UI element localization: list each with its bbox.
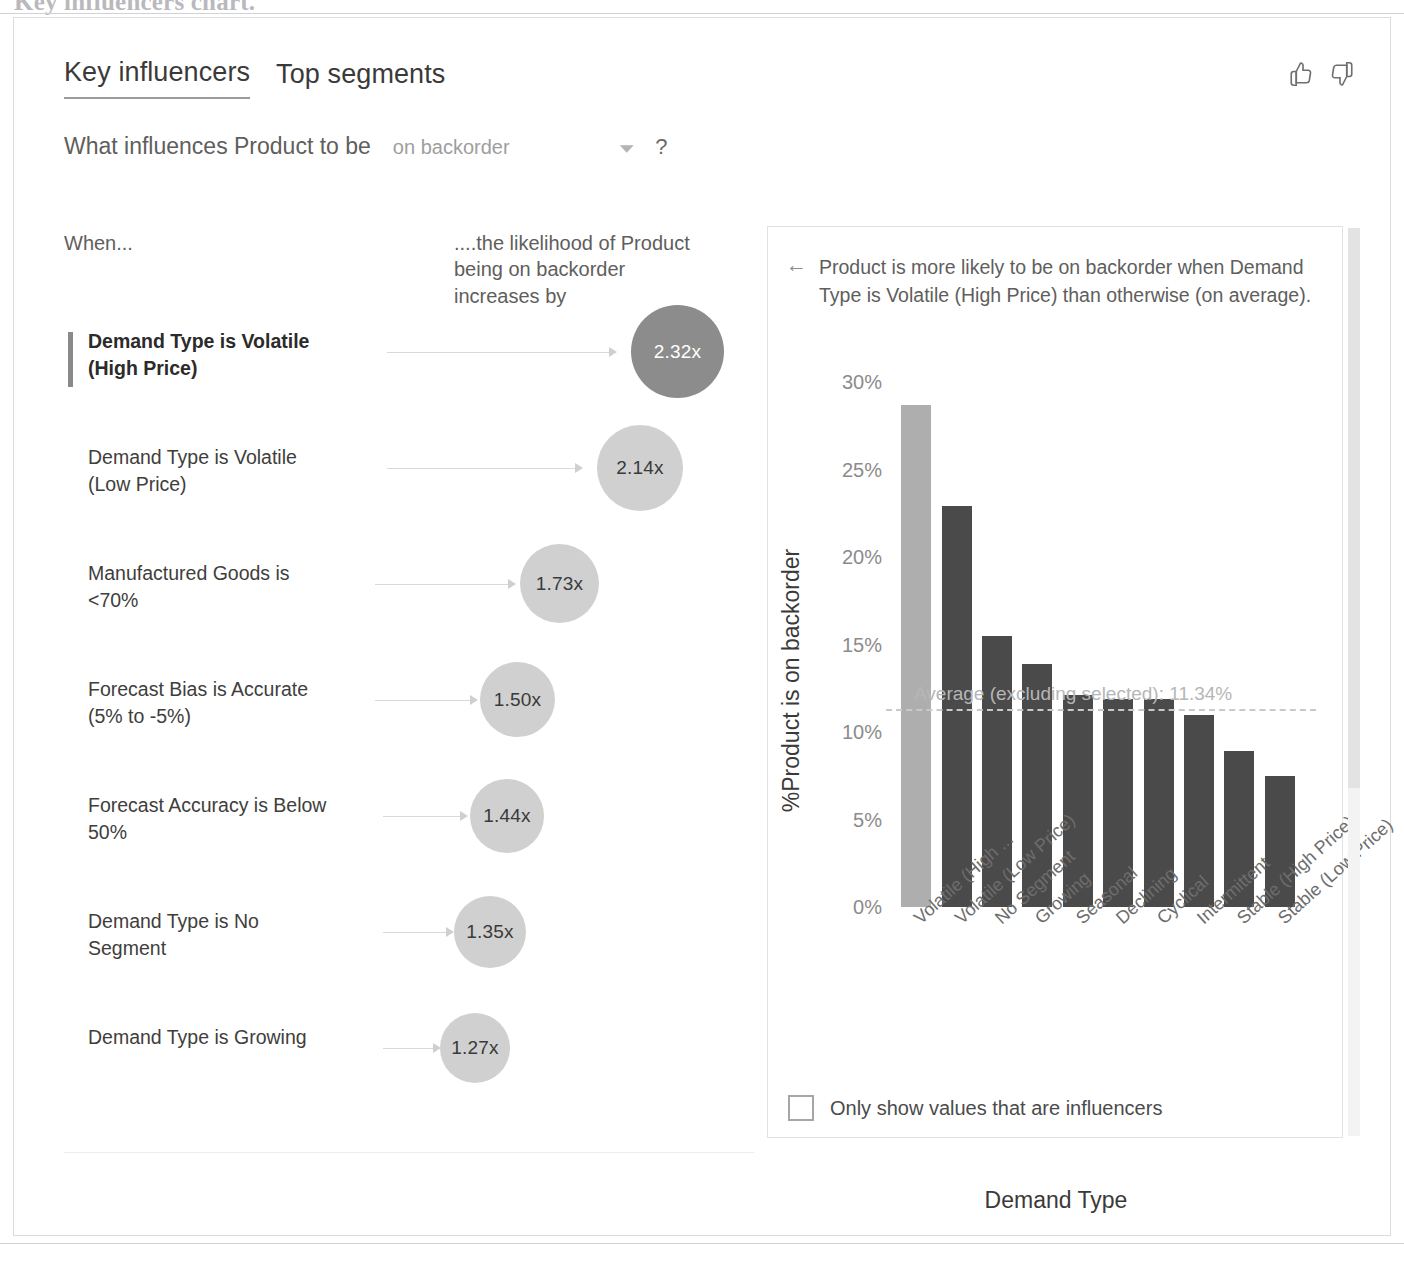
influencer-label: Demand Type is Growing [88, 1024, 388, 1051]
y-axis-tick-label: 10% [842, 721, 882, 744]
y-axis-ticks: 30%25%20%15%10%5%0% [804, 347, 882, 907]
influencer-row[interactable]: Demand Type is Growing1.27x [0, 1018, 760, 1134]
y-axis-tick-label: 25% [842, 458, 882, 481]
bar[interactable] [901, 405, 931, 907]
list-divider [64, 1152, 754, 1153]
column-header-when: When... [64, 230, 133, 256]
detail-card: ← Product is more likely to be on backor… [767, 226, 1343, 1138]
feedback-icons [1285, 59, 1358, 89]
influencer-bubble[interactable]: 1.27x [440, 1013, 510, 1083]
y-axis-tick-label: 20% [842, 546, 882, 569]
thumbs-down-icon[interactable] [1328, 59, 1358, 89]
influencer-label: Manufactured Goods is <70% [88, 560, 388, 614]
influencer-label: Demand Type is No Segment [88, 908, 388, 962]
checkbox-icon[interactable] [788, 1095, 814, 1121]
bar-chart: %Product is on backorder 30%25%20%15%10%… [768, 347, 1344, 1067]
bottom-divider [0, 1243, 1404, 1244]
influencer-row[interactable]: Demand Type is No Segment1.35x [0, 902, 760, 1018]
only-influencers-checkbox-row[interactable]: Only show values that are influencers [788, 1095, 1162, 1121]
connector-line [383, 816, 460, 817]
influencer-label: Forecast Accuracy is Below 50% [88, 792, 388, 846]
connector-arrow-icon [446, 927, 454, 937]
question-dropdown[interactable]: on backorder ▾ [393, 136, 631, 159]
influencer-label: Demand Type is Volatile (High Price) [88, 328, 388, 382]
influencer-bubble[interactable]: 1.73x [520, 544, 599, 623]
connector-line [387, 352, 609, 353]
x-axis-title: Demand Type [768, 1187, 1344, 1214]
question-row: What influences Product to be on backord… [64, 133, 667, 160]
influencer-bubble[interactable]: 1.50x [480, 662, 555, 737]
influencer-row[interactable]: Demand Type is Volatile (High Price)2.32… [0, 322, 760, 438]
influencer-row[interactable]: Forecast Bias is Accurate (5% to -5%)1.5… [0, 670, 760, 786]
influencer-row[interactable]: Forecast Accuracy is Below 50%1.44x [0, 786, 760, 902]
checkbox-label: Only show values that are influencers [830, 1097, 1162, 1120]
y-axis-tick-label: 15% [842, 633, 882, 656]
influencer-bubble[interactable]: 1.35x [454, 896, 526, 968]
connector-line [387, 468, 575, 469]
chevron-down-icon: ▾ [619, 140, 633, 155]
influencer-row[interactable]: Manufactured Goods is <70%1.73x [0, 554, 760, 670]
question-prefix: What influences Product to be [64, 133, 371, 160]
average-reference-line [886, 709, 1316, 711]
tab-top-segments[interactable]: Top segments [276, 59, 445, 99]
connector-line [383, 932, 446, 933]
detail-header: ← Product is more likely to be on backor… [786, 253, 1319, 309]
influencers-pane: When... ....the likelihood of Product be… [0, 214, 760, 1174]
tab-strip: Key influencers Top segments [64, 57, 445, 99]
detail-description: Product is more likely to be on backorde… [819, 253, 1319, 309]
top-divider [0, 13, 1404, 14]
back-arrow-icon[interactable]: ← [786, 253, 807, 309]
influencer-bubble[interactable]: 2.14x [597, 425, 683, 511]
influencer-list: Demand Type is Volatile (High Price)2.32… [0, 322, 760, 1134]
bar-series [896, 347, 1300, 907]
x-axis-ticks: Volatile (High ...Volatile (Low Price)No… [896, 913, 1326, 1063]
y-axis-tick-label: 0% [853, 896, 882, 919]
connector-arrow-icon [575, 463, 583, 473]
connector-arrow-icon [470, 695, 478, 705]
y-axis-tick-label: 30% [842, 371, 882, 394]
influencer-bubble[interactable]: 2.32x [631, 305, 724, 398]
influencer-row[interactable]: Demand Type is Volatile (Low Price)2.14x [0, 438, 760, 554]
average-reference-label: Average (excluding selected): 11.34% [914, 683, 1232, 705]
screenshot-root: Key influencers chart. Key influencers T… [0, 0, 1404, 1261]
influencer-bubble[interactable]: 1.44x [470, 779, 544, 853]
influencer-label: Forecast Bias is Accurate (5% to -5%) [88, 676, 388, 730]
question-selected-value: on backorder [393, 136, 510, 159]
selection-indicator [68, 332, 73, 387]
thumbs-up-icon[interactable] [1285, 59, 1315, 89]
vertical-scrollbar[interactable] [1348, 228, 1360, 1136]
help-icon[interactable]: ? [655, 134, 667, 160]
bar[interactable] [942, 506, 972, 907]
tab-key-influencers[interactable]: Key influencers [64, 57, 250, 99]
connector-arrow-icon [460, 811, 468, 821]
connector-line [375, 700, 470, 701]
influencer-label: Demand Type is Volatile (Low Price) [88, 444, 388, 498]
connector-line [383, 1048, 433, 1049]
connector-line [375, 584, 508, 585]
connector-arrow-icon [609, 347, 617, 357]
scrollbar-thumb[interactable] [1348, 228, 1360, 788]
y-axis-title: %Product is on backorder [778, 516, 805, 846]
connector-arrow-icon [508, 579, 516, 589]
y-axis-tick-label: 5% [853, 808, 882, 831]
column-header-likelihood: ....the likelihood of Product being on b… [454, 230, 704, 309]
